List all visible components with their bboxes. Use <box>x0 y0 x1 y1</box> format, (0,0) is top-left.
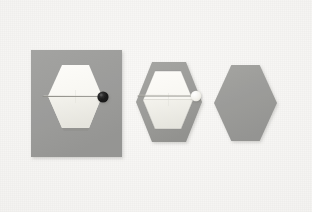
grain-overlay <box>0 0 312 212</box>
photo-canvas: Three-step hexagon folding sequence phot… <box>0 0 312 212</box>
scene-svg <box>0 0 312 212</box>
object-layer <box>0 0 312 212</box>
